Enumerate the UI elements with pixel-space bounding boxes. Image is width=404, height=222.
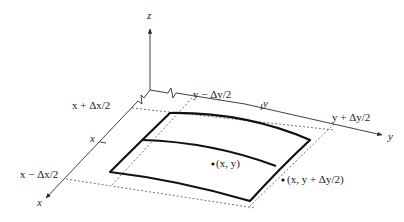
y-left-label: y − Δy/2 bbox=[193, 88, 231, 100]
center-point-label: (x, y) bbox=[216, 157, 240, 170]
surface-patch bbox=[110, 113, 310, 201]
edge-point-label: (x, y + Δy/2) bbox=[287, 173, 344, 186]
x-axis-label: x bbox=[36, 196, 42, 208]
edge-point bbox=[281, 178, 284, 181]
x-upper-label: x + Δx/2 bbox=[72, 99, 110, 111]
x-middle-label: x bbox=[89, 132, 95, 144]
y-middle-label: y bbox=[262, 97, 268, 109]
x-lower-label: x − Δx/2 bbox=[20, 168, 58, 180]
y-right-label: y + Δy/2 bbox=[332, 111, 370, 123]
center-point bbox=[211, 162, 214, 165]
y-axis-label: y bbox=[387, 130, 393, 142]
z-axis-label: z bbox=[146, 9, 152, 21]
surface-element-diagram: z y x x + Δx/2 x x − Δx/2 y − Δy/2 y y + bbox=[0, 0, 404, 222]
